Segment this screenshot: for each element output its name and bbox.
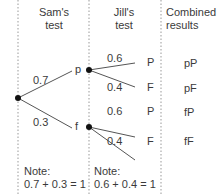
header-jills-test: Jill's test	[100, 6, 148, 32]
prob-sam-pass: 0.7	[33, 74, 48, 87]
header-sams-test: Sam's test	[30, 6, 78, 32]
outcome-jill-fail-1: F	[147, 81, 154, 94]
prob-jill-fail-given-f: 0.4	[107, 135, 122, 148]
outcome-jill-pass-2: P	[147, 105, 154, 118]
prob-jill-pass-given-p: 0.6	[107, 52, 122, 65]
header-line: Sam's	[30, 6, 78, 19]
header-line: results	[166, 19, 216, 32]
note-sam: Note: 0.7 + 0.3 = 1	[24, 165, 86, 191]
header-line: test	[100, 19, 148, 32]
outcome-jill-pass-1: P	[147, 56, 154, 69]
result-pP: pP	[184, 57, 197, 70]
outcome-sam-fail: f	[75, 120, 78, 133]
note-jill: Note: 0.6 + 0.4 = 1	[94, 165, 156, 191]
outcome-jill-fail-2: F	[147, 135, 154, 148]
note-line: 0.6 + 0.4 = 1	[94, 178, 156, 191]
header-line: Jill's	[100, 6, 148, 19]
prob-sam-fail: 0.3	[33, 116, 48, 129]
header-line: test	[30, 19, 78, 32]
result-fP: fP	[184, 106, 194, 119]
header-line: Combined	[166, 6, 216, 19]
prob-jill-pass-given-f: 0.6	[107, 105, 122, 118]
result-fF: fF	[184, 135, 194, 148]
result-pF: pF	[184, 82, 197, 95]
header-combined-results: Combined results	[166, 6, 216, 32]
note-line: Note:	[24, 165, 86, 178]
note-line: Note:	[94, 165, 156, 178]
note-line: 0.7 + 0.3 = 1	[24, 178, 86, 191]
prob-jill-fail-given-p: 0.4	[107, 81, 122, 94]
outcome-sam-pass: p	[75, 63, 81, 76]
